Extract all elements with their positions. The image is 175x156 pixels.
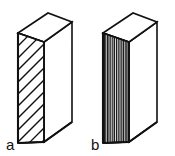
figure-b-label: b bbox=[91, 136, 99, 153]
figure-a-label: a bbox=[6, 136, 15, 153]
figure-a-group bbox=[0, 0, 72, 156]
figure-b-group bbox=[103, 13, 157, 150]
block-diagram-svg: a b bbox=[0, 0, 175, 156]
figure-container: a b bbox=[0, 0, 175, 156]
